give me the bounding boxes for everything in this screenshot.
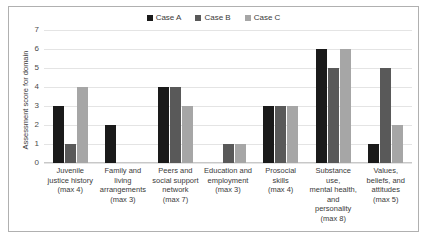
x-axis-category-label: Education andemployment(max 3) — [202, 166, 255, 223]
legend-entry[interactable]: Case B — [195, 13, 230, 22]
chart-legend: Case ACase BCase C — [0, 13, 427, 22]
y-axis-tick-label: 4 — [35, 83, 39, 91]
legend-swatch-icon — [245, 15, 251, 21]
legend-entry[interactable]: Case C — [245, 13, 281, 22]
bar[interactable] — [77, 87, 88, 163]
plot-area: 01234567 — [44, 30, 412, 163]
bar-groups — [44, 30, 412, 163]
bar[interactable] — [53, 106, 64, 163]
bar[interactable] — [158, 87, 169, 163]
x-axis-category-label: Substance use,mental health,andpersonali… — [307, 166, 360, 223]
bar-group — [359, 30, 412, 163]
bar-chart-figure: Case ACase BCase C Assessment score for … — [0, 0, 427, 238]
gridline: 0 — [44, 163, 412, 164]
bar-group — [44, 30, 97, 163]
bar[interactable] — [105, 125, 116, 163]
bar[interactable] — [263, 106, 274, 163]
legend-swatch-icon — [195, 15, 201, 21]
bar-group — [307, 30, 360, 163]
bar-group — [149, 30, 202, 163]
bar[interactable] — [287, 106, 298, 163]
bar-group — [202, 30, 255, 163]
legend-swatch-icon — [147, 15, 153, 21]
y-axis-tick-label: 2 — [35, 121, 39, 129]
x-axis-category-labels: Juvenilejustice history(max 4)Family and… — [44, 166, 412, 223]
bar[interactable] — [380, 68, 391, 163]
bar[interactable] — [368, 144, 379, 163]
x-axis-category-label: Peers andsocial supportnetwork(max 7) — [149, 166, 202, 223]
legend-entry[interactable]: Case A — [147, 13, 182, 22]
bar[interactable] — [235, 144, 246, 163]
bar[interactable] — [182, 106, 193, 163]
legend-label: Case B — [204, 13, 230, 22]
bar[interactable] — [275, 106, 286, 163]
y-axis-tick-label: 3 — [35, 102, 39, 110]
bar[interactable] — [340, 49, 351, 163]
x-axis-category-label: Values,beliefs, andattitudes(max 5) — [359, 166, 412, 223]
legend-label: Case A — [156, 13, 182, 22]
y-axis-tick-label: 7 — [35, 26, 39, 34]
bar[interactable] — [65, 144, 76, 163]
bar-group — [97, 30, 150, 163]
legend-label: Case C — [254, 13, 281, 22]
y-axis-tick-label: 6 — [35, 45, 39, 53]
x-axis-category-label: Juvenilejustice history(max 4) — [44, 166, 97, 223]
bar[interactable] — [328, 68, 339, 163]
bar[interactable] — [392, 125, 403, 163]
y-axis-tick-label: 1 — [35, 140, 39, 148]
bar[interactable] — [170, 87, 181, 163]
x-axis-category-label: Family andlivingarrangements(max 3) — [97, 166, 150, 223]
x-axis-category-label: Prosocialskills(max 4) — [254, 166, 307, 223]
bar[interactable] — [223, 144, 234, 163]
bar-group — [254, 30, 307, 163]
y-axis-title: Assessment score for domain — [20, 36, 31, 164]
bar[interactable] — [316, 49, 327, 163]
y-axis-tick-label: 5 — [35, 64, 39, 72]
y-axis-tick-label: 0 — [35, 159, 39, 167]
